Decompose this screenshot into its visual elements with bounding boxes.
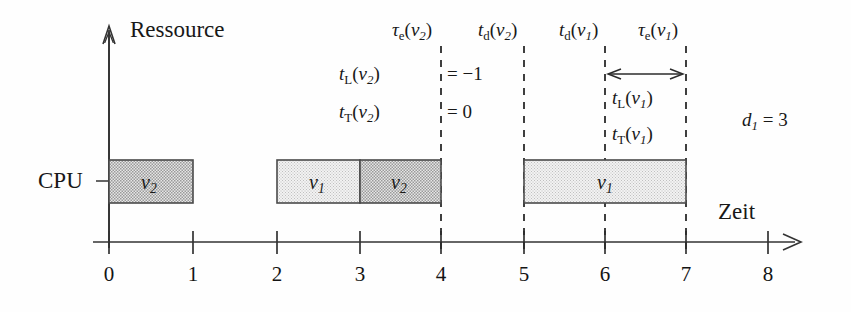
annotation-deadline: d1 = 3 [742, 110, 788, 133]
task-label-v1-a: v1 [309, 171, 325, 197]
x-tick-label-3: 3 [345, 262, 375, 287]
y-axis-label: Ressource [130, 18, 225, 41]
marker-label-t-d-v1: td(v1) [559, 20, 598, 43]
x-tick-label-2: 2 [262, 262, 292, 287]
y-axis [103, 26, 115, 248]
x-axis-label-text: Zeit [718, 199, 755, 224]
x-tick-label-0: 0 [94, 262, 124, 287]
x-axis [93, 231, 801, 254]
y-axis-label-text: Ressource [130, 17, 225, 42]
x-tick-label-1: 1 [178, 262, 208, 287]
resource-row-label: CPU [38, 169, 83, 192]
gantt-figure: Ressource Zeit CPU 0 1 2 3 4 5 6 7 8 v2 … [0, 0, 851, 312]
marker-label-tau-e-v1: τe(v1) [638, 20, 678, 43]
annotation-tt-v2: tT(v2) [339, 102, 380, 125]
x-tick-label-5: 5 [509, 262, 539, 287]
marker-label-t-d-v2: td(v2) [478, 20, 517, 43]
annotation-tl-v2-value: = −1 [447, 64, 483, 83]
task-label-v2-a: v2 [141, 171, 157, 197]
annotation-tl-v2: tL(v2) [339, 64, 380, 87]
marker-label-tau-e-v2: τe(v2) [392, 20, 432, 43]
task-label-v1-b: v1 [597, 171, 613, 197]
x-tick-label-6: 6 [590, 262, 620, 287]
annotation-tt-v2-value: = 0 [447, 102, 472, 121]
resource-row-label-text: CPU [38, 168, 83, 193]
annotation-tt-v1: tT(v1) [612, 124, 653, 147]
x-tick-label-8: 8 [753, 262, 783, 287]
annotation-tl-v1: tL(v1) [612, 88, 653, 111]
x-axis-label: Zeit [718, 200, 755, 223]
x-tick-label-4: 4 [426, 262, 456, 287]
task-label-v2-b: v2 [391, 171, 407, 197]
x-tick-label-7: 7 [671, 262, 701, 287]
